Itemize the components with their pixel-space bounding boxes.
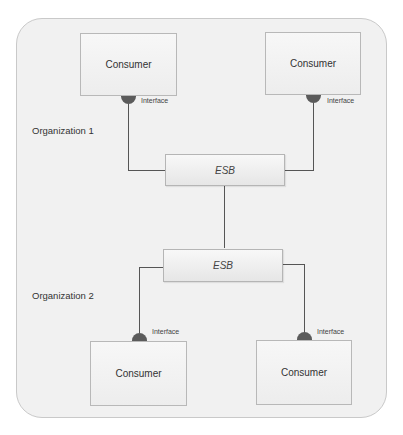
connector-line <box>283 264 304 265</box>
connector-line <box>313 103 314 170</box>
organization-label: Organization 2 <box>32 290 94 301</box>
esb-box-bottom: ESB <box>163 249 283 282</box>
esb-label: ESB <box>213 260 233 271</box>
consumer-box-top-right: Consumer <box>265 32 361 95</box>
consumer-label: Consumer <box>105 59 151 70</box>
connector-line <box>128 104 129 170</box>
interface-label: Interface <box>141 97 168 104</box>
organization-label: Organization 1 <box>32 125 94 136</box>
consumer-label: Consumer <box>281 367 327 378</box>
esb-label: ESB <box>215 165 235 176</box>
consumer-label: Consumer <box>115 368 161 379</box>
connector-line <box>285 170 314 171</box>
connector-line <box>128 170 166 171</box>
interface-icon <box>297 332 312 340</box>
interface-label: Interface <box>152 328 179 335</box>
connector-line <box>224 186 225 248</box>
esb-box-top: ESB <box>165 154 285 186</box>
consumer-box-bottom-right: Consumer <box>256 340 352 405</box>
connector-line <box>139 267 140 333</box>
consumer-label: Consumer <box>290 58 336 69</box>
consumer-box-bottom-left: Consumer <box>90 341 187 406</box>
connector-line <box>304 264 305 334</box>
interface-icon <box>132 333 147 341</box>
interface-label: Interface <box>327 97 354 104</box>
connector-line <box>139 267 164 268</box>
consumer-box-top-left: Consumer <box>80 33 177 96</box>
interface-label: Interface <box>317 328 344 335</box>
